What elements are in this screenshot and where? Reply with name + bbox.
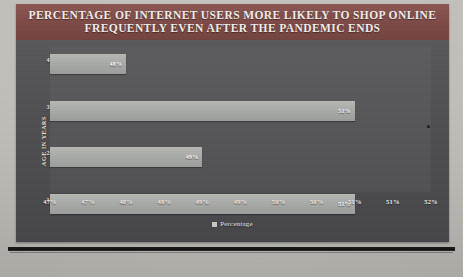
- plot-area: 48% 51% 49% 51%: [50, 47, 431, 192]
- x-tick-label: 51%: [348, 198, 362, 205]
- bar-row: 48%: [50, 54, 431, 74]
- table-edge-line: [8, 247, 455, 251]
- table-edge-shadow: [10, 252, 453, 253]
- x-tick-label: 48%: [119, 198, 133, 205]
- chart-title-band: PERCENTAGE OF INTERNET USERS MORE LIKELY…: [16, 4, 449, 40]
- x-tick-label: 50%: [310, 198, 324, 205]
- x-tick-label: 52%: [424, 198, 438, 205]
- chart-legend: Percentage: [16, 220, 449, 228]
- page-title: PERCENTAGE OF INTERNET USERS MORE LIKELY…: [21, 9, 445, 35]
- x-tick-label: 47%: [81, 198, 95, 205]
- x-tick-label: 51%: [386, 198, 400, 205]
- x-tick-label: 48%: [157, 198, 171, 205]
- dust-speck: [427, 125, 430, 128]
- bar-25-34[interactable]: 49%: [50, 147, 202, 167]
- bar-35-44[interactable]: 51%: [50, 101, 355, 121]
- bar-value-label: 51%: [338, 108, 351, 114]
- x-axis: 47%47%48%48%49%49%50%50%51%51%52%: [50, 198, 431, 210]
- legend-label: Percentage: [220, 220, 253, 228]
- chart-title-line-1: PERCENTAGE OF INTERNET USERS MORE LIKELY…: [29, 9, 437, 21]
- bar-value-label: 49%: [186, 154, 199, 160]
- bar-row: 49%: [50, 147, 431, 167]
- y-axis-title: AGE IN YEARS: [41, 116, 47, 166]
- bar-45-54[interactable]: 48%: [50, 54, 126, 74]
- x-tick-label: 49%: [196, 198, 210, 205]
- x-tick-label: 47%: [43, 198, 57, 205]
- x-tick-label: 50%: [272, 198, 286, 205]
- chart-title-line-2: FREQUENTLY EVEN AFTER THE PANDEMIC ENDS: [85, 22, 381, 34]
- bar-value-label: 48%: [110, 61, 123, 67]
- chart-body: AGE IN YEARS 45-54 35-44 25-34 16-24 48%…: [16, 40, 449, 242]
- legend-swatch-icon: [212, 222, 217, 227]
- x-tick-label: 49%: [234, 198, 248, 205]
- bar-row: 51%: [50, 101, 431, 121]
- screenshot-root: PERCENTAGE OF INTERNET USERS MORE LIKELY…: [0, 0, 463, 277]
